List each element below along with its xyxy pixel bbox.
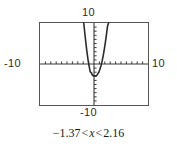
- caption-inequality: −1.37<x<2.16: [0, 126, 177, 141]
- graph-figure: 10 -10 10 -10 −1.37<x<2.16: [0, 0, 177, 149]
- caption-upper-bound: 2.16: [103, 126, 124, 140]
- caption-relation-right: <: [95, 126, 104, 140]
- y-axis-min-label: -10: [0, 107, 177, 118]
- plot-viewport: [39, 22, 149, 106]
- y-axis-max-label: 10: [0, 7, 177, 18]
- caption-relation-left: <: [80, 126, 89, 140]
- x-axis-min-label: -10: [4, 58, 21, 69]
- caption-lower-bound: −1.37: [53, 126, 81, 140]
- caption-variable: x: [89, 126, 94, 140]
- x-axis-max-label: 10: [152, 58, 165, 69]
